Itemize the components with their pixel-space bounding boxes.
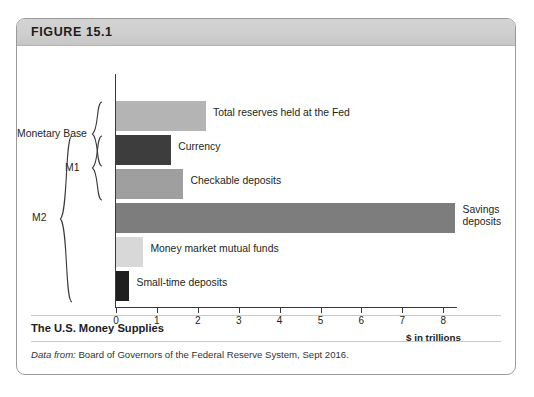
x-tick-1 [157,307,158,313]
bar-5 [116,237,143,267]
figure-page: FIGURE 15.1 Total reserves held at the F… [0,0,534,397]
x-tick-8 [443,307,444,313]
bar-label-5: Money market mutual funds [150,243,278,255]
x-tick-5 [321,307,322,313]
figure-panel: FIGURE 15.1 Total reserves held at the F… [16,18,516,375]
source-prefix: Data from: [31,349,76,360]
bar-6 [116,271,129,301]
x-tick-7 [402,307,403,313]
x-tick-4 [280,307,281,313]
figure-caption-title: The U.S. Money Supplies [31,322,164,334]
bracket-m2 [59,135,73,303]
bar-label-2: Currency [178,141,220,153]
caption-divider-top [31,315,501,316]
source-text: Board of Governors of the Federal Reserv… [76,349,349,360]
x-tick-label-4: 4 [277,315,283,326]
x-tick-3 [239,307,240,313]
x-tick-0 [116,307,117,313]
x-axis-line [115,307,457,308]
figure-number-title: FIGURE 15.1 [31,25,113,39]
bar-label-3: Checkable deposits [190,175,281,187]
x-tick-label-5: 5 [318,315,324,326]
x-tick-label-7: 7 [400,315,406,326]
figure-header-band: FIGURE 15.1 [17,19,515,46]
caption-divider-bottom [31,341,501,342]
bar-4 [116,203,455,233]
x-tick-label-3: 3 [236,315,242,326]
x-tick-label-2: 2 [195,315,201,326]
group-label-m2: M2 [32,212,46,223]
bar-2 [116,135,171,165]
x-tick-2 [198,307,199,313]
bar-3 [116,169,183,199]
x-tick-6 [361,307,362,313]
bar-label-6: Small-time deposits [136,277,227,289]
group-label-monetary-base: Monetary Base [17,128,87,139]
x-tick-label-8: 8 [440,315,446,326]
bar-label-1: Total reserves held at the Fed [213,107,350,119]
x-tick-label-6: 6 [359,315,365,326]
bracket-m1 [91,135,103,201]
figure-source-note: Data from: Board of Governors of the Fed… [31,349,349,360]
bar-label-4: Savings deposits [462,204,516,227]
bar-1 [116,101,206,131]
